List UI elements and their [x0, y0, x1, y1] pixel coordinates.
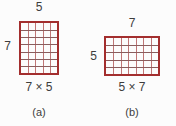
- multiplication-arrays-diagram: 5 7 7 × 5 (a) 7 5 5 × 7 (b): [0, 0, 176, 126]
- figure-a-caption: (a): [19, 106, 59, 119]
- figure-b-product-label: 5 × 7: [96, 81, 168, 94]
- figure-a-product-label: 7 × 5: [9, 81, 69, 94]
- figure-b-top-dimension-label: 7: [104, 17, 160, 30]
- figure-a-top-dimension-label: 5: [19, 1, 59, 14]
- figure-a-grid-7x5: [19, 21, 59, 75]
- figure-b-grid-5x7: [104, 36, 160, 76]
- figure-b-side-dimension-label: 5: [87, 50, 100, 63]
- figure-a-side-dimension-label: 7: [1, 40, 14, 53]
- figure-b-caption: (b): [104, 106, 160, 119]
